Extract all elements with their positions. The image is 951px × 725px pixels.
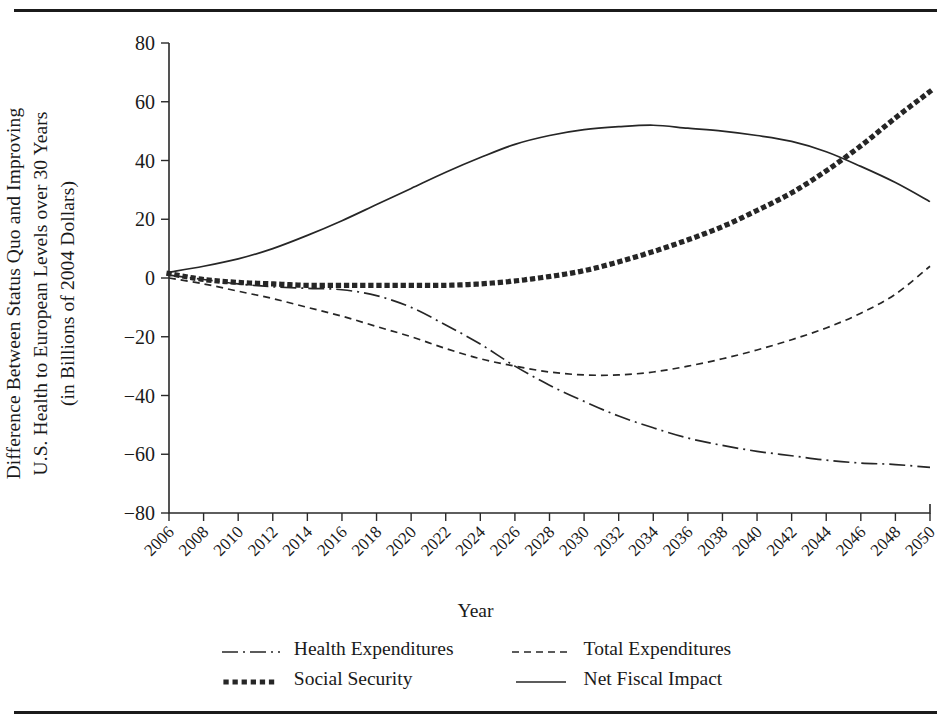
legend-item-label: Net Fiscal Impact [584, 666, 723, 692]
legend-item-label: Health Expenditures [294, 636, 454, 662]
dotted-line-icon [220, 672, 282, 686]
chart-legend: Health ExpendituresTotal ExpendituresSoc… [0, 636, 951, 692]
x-tick-label: 2024 [452, 522, 490, 560]
solid-line-icon [510, 672, 572, 686]
x-tick-label: 2044 [798, 522, 836, 560]
x-tick-label: 2028 [521, 522, 558, 559]
x-tick-label: 2032 [590, 522, 627, 559]
chart-tick-labels: 806040200−20−40−60−802006200820102012201… [124, 32, 939, 560]
dash-dot-line-icon [220, 642, 282, 656]
x-tick-label: 2046 [832, 522, 869, 559]
y-tick-label: 0 [145, 267, 155, 289]
y-tick-label: 60 [135, 91, 155, 113]
y-tick-label: 80 [135, 32, 155, 54]
x-tick-label: 2048 [867, 522, 904, 559]
x-tick-label: 2010 [210, 522, 247, 559]
x-tick-label: 2050 [901, 522, 938, 559]
legend-item-label: Social Security [294, 666, 413, 692]
legend-item-net-fiscal-impact[interactable]: Net Fiscal Impact [510, 666, 732, 692]
y-tick-label: −60 [124, 443, 155, 465]
x-tick-label: 2006 [140, 522, 177, 559]
x-tick-label: 2040 [728, 522, 765, 559]
x-tick-label: 2036 [659, 522, 696, 559]
chart-figure: Difference Between Status Quo and Improv… [0, 0, 951, 725]
y-tick-label: 40 [135, 150, 155, 172]
x-tick-label: 2022 [417, 522, 454, 559]
chart-plot-area: 806040200−20−40−60−802006200820102012201… [0, 0, 951, 600]
legend-item-label: Total Expenditures [584, 636, 732, 662]
series-line-social-security [169, 91, 930, 285]
dashed-line-icon [510, 642, 572, 656]
x-tick-label: 2008 [175, 522, 212, 559]
series-line-health-expenditures [169, 275, 930, 467]
series-line-net-fiscal-impact [169, 125, 930, 272]
legend-item-total-expenditures[interactable]: Total Expenditures [510, 636, 732, 662]
x-tick-label: 2020 [382, 522, 419, 559]
x-tick-label: 2016 [313, 522, 350, 559]
x-tick-label: 2014 [279, 522, 317, 560]
x-tick-label: 2034 [625, 522, 663, 560]
x-tick-label: 2026 [486, 522, 523, 559]
x-tick-label: 2018 [348, 522, 385, 559]
x-tick-label: 2042 [763, 522, 800, 559]
y-tick-label: −20 [124, 326, 155, 348]
y-tick-label: −80 [124, 502, 155, 524]
chart-series [169, 91, 930, 467]
x-axis-label: Year [0, 600, 951, 622]
legend-item-social-security[interactable]: Social Security [220, 666, 454, 692]
legend-item-health-expenditures[interactable]: Health Expenditures [220, 636, 454, 662]
x-tick-label: 2030 [555, 522, 592, 559]
y-tick-label: −40 [124, 385, 155, 407]
y-tick-label: 20 [135, 208, 155, 230]
x-tick-label: 2038 [694, 522, 731, 559]
x-tick-label: 2012 [244, 522, 281, 559]
